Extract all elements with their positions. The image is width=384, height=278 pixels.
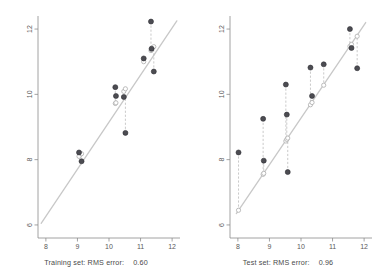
y-tick-label: 12: [219, 25, 226, 33]
predicted-point: [322, 83, 326, 87]
predicted-point: [123, 87, 127, 91]
observed-point: [284, 112, 289, 117]
regression-line: [41, 21, 177, 223]
observed-point: [321, 62, 326, 67]
y-tick-label: 12: [27, 25, 34, 33]
observed-point: [310, 93, 315, 98]
observed-point: [151, 69, 156, 74]
observed-point: [355, 66, 360, 71]
test-set-rms-value: 0.96: [310, 258, 334, 267]
observed-point: [261, 116, 266, 121]
training-set-caption-label: Training set: RMS error:: [44, 258, 124, 267]
x-tick-label: 9: [267, 243, 271, 250]
observed-point: [123, 130, 128, 135]
training-set-plot: 89101112681012: [0, 0, 192, 258]
observed-points: [236, 27, 360, 175]
y-tick-label: 6: [27, 223, 34, 227]
observed-points: [77, 19, 157, 164]
observed-point: [285, 170, 290, 175]
x-tick-label: 12: [360, 243, 368, 250]
observed-point: [349, 45, 354, 50]
y-tick-label: 10: [27, 90, 34, 98]
regression-diagnostic-figure: 89101112681012 Training set: RMS error:0…: [0, 0, 384, 278]
axes: 89101112681012: [219, 16, 373, 250]
y-tick-label: 8: [27, 158, 34, 162]
x-tick-label: 11: [329, 243, 336, 250]
y-tick-label: 10: [219, 90, 226, 98]
x-tick-label: 8: [44, 243, 48, 250]
predicted-point: [114, 101, 118, 105]
observed-point: [283, 82, 288, 87]
x-tick-label: 10: [297, 243, 305, 250]
x-tick-label: 12: [168, 243, 176, 250]
x-tick-label: 10: [105, 243, 113, 250]
training-set-rms-value: 0.60: [124, 258, 148, 267]
y-tick-label: 8: [219, 158, 226, 162]
observed-point: [148, 19, 153, 24]
test-set-caption: Test set: RMS error:0.96: [192, 258, 384, 267]
x-tick-label: 8: [236, 243, 240, 250]
test-set-panel: 89101112681012 Test set: RMS error:0.96: [192, 0, 384, 278]
observed-point: [347, 27, 352, 32]
observed-point: [149, 46, 154, 51]
predicted-point: [355, 34, 359, 38]
observed-point: [113, 93, 118, 98]
observed-point: [236, 150, 241, 155]
observed-point: [77, 150, 82, 155]
test-set-caption-label: Test set: RMS error:: [243, 258, 310, 267]
predicted-point: [286, 136, 290, 140]
observed-point: [308, 65, 313, 70]
regression-line: [236, 23, 365, 214]
observed-point: [141, 56, 146, 61]
observed-point: [121, 94, 126, 99]
test-set-plot: 89101112681012: [192, 0, 384, 258]
predicted-point: [262, 171, 266, 175]
predicted-point: [310, 100, 314, 104]
x-tick-label: 9: [75, 243, 79, 250]
y-tick-label: 6: [219, 223, 226, 227]
observed-point: [261, 158, 266, 163]
residual-lines: [79, 22, 154, 162]
x-tick-label: 11: [137, 243, 144, 250]
observed-point: [79, 159, 84, 164]
training-set-panel: 89101112681012 Training set: RMS error:0…: [0, 0, 192, 278]
predicted-point: [236, 208, 240, 212]
observed-point: [113, 85, 118, 90]
training-set-caption: Training set: RMS error:0.60: [0, 258, 192, 267]
predicted-points: [77, 45, 156, 159]
